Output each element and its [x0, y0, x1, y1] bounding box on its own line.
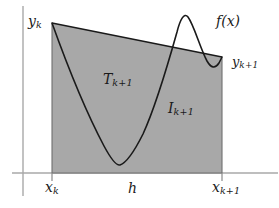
label-x-k-plus-1-subscript: k+1 [220, 185, 240, 196]
label-x-k-base: x [45, 179, 53, 195]
endpoint-ticks-group [52, 173, 222, 181]
label-f-of-x: f(x) [216, 14, 240, 28]
label-x-k-plus-1-base: x [212, 179, 220, 195]
label-y-k-base: y [28, 13, 36, 29]
trapezoidal-rule-diagram [0, 0, 279, 208]
figure-container: yk f(x) yk+1 Tk+1 Ik+1 xk h xk+1 [0, 0, 279, 208]
label-T-k-plus-1-base: T [103, 71, 112, 87]
label-x-k-plus-1: xk+1 [212, 180, 240, 196]
label-I-k-plus-1: Ik+1 [168, 101, 194, 117]
label-x-k: xk [45, 180, 59, 196]
label-T-k-plus-1: Tk+1 [103, 72, 133, 88]
label-step-width-h: h [128, 181, 137, 195]
label-y-k-plus-1-subscript: k+1 [239, 60, 258, 70]
label-y-k-plus-1: yk+1 [232, 55, 258, 70]
label-T-k-plus-1-subscript: k+1 [112, 77, 132, 88]
label-y-k: yk [28, 14, 42, 30]
label-x-k-subscript: k [53, 185, 59, 196]
shaded-trapezoid-region [52, 23, 222, 173]
label-I-k-plus-1-subscript: k+1 [174, 106, 194, 117]
label-y-k-subscript: k [36, 19, 42, 30]
